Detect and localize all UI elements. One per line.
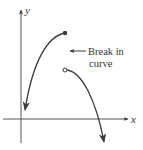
open-endpoint-dot	[63, 68, 67, 72]
right-curve	[67, 70, 104, 142]
annotation-line1: Break in	[88, 46, 125, 57]
left-curve	[25, 33, 65, 110]
function-graph: y x Break in curve	[0, 0, 143, 150]
annotation-line2: curve	[89, 58, 113, 69]
y-axis-label: y	[24, 4, 30, 16]
x-axis-label: x	[130, 113, 136, 125]
closed-endpoint-dot	[63, 31, 67, 35]
